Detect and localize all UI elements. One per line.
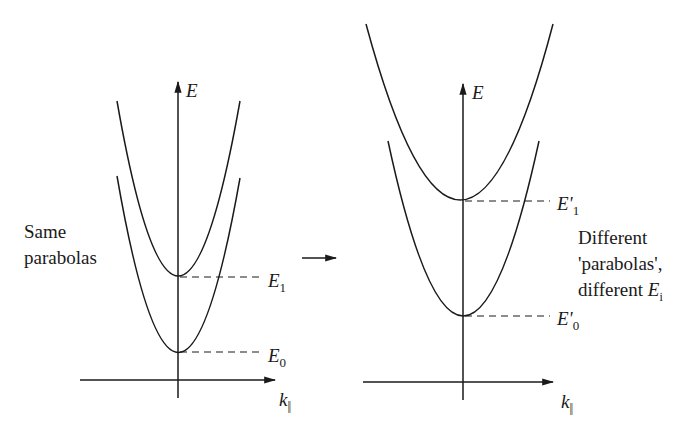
- left-panel: [80, 82, 275, 398]
- right-k-axis-label: k||: [561, 391, 572, 415]
- level-subscript: 0: [280, 355, 287, 370]
- parallel-subscript: ||: [569, 401, 572, 415]
- left-caption-line-2: parabolas: [24, 247, 97, 269]
- caption-E-subscript: i: [659, 290, 662, 304]
- caption-E: E: [648, 279, 660, 300]
- left-E0-label: E0: [268, 345, 286, 369]
- parallel-subscript: ||: [287, 399, 290, 413]
- right-upper-parabola: [366, 24, 553, 200]
- left-E1-label: E1: [268, 270, 286, 294]
- right-panel: [363, 24, 553, 400]
- left-k-axis-label: k||: [279, 389, 290, 413]
- caption-text: different: [578, 279, 648, 300]
- right-caption-line-2: 'parabolas',: [578, 253, 662, 275]
- level-subscript: 1: [573, 203, 580, 218]
- level-name: E': [557, 193, 573, 214]
- level-name: E: [268, 345, 280, 366]
- right-caption-line-3: different Ei: [578, 279, 663, 303]
- left-caption-line-1: Same: [24, 221, 66, 243]
- level-name: E: [268, 270, 280, 291]
- right-E0-prime-label: E'0: [557, 308, 579, 332]
- level-subscript: 1: [280, 280, 287, 295]
- left-energy-axis-label: E: [186, 80, 198, 102]
- level-subscript: 0: [573, 318, 580, 333]
- right-E1-prime-label: E'1: [557, 193, 579, 217]
- level-name: E': [557, 308, 573, 329]
- right-caption-line-1: Different: [578, 227, 647, 249]
- diagram-canvas: [0, 0, 696, 424]
- right-energy-axis-label: E: [472, 82, 484, 104]
